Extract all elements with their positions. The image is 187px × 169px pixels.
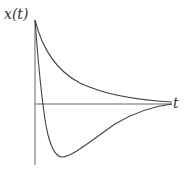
y-axis-label: x(t) [4, 6, 28, 22]
response-chart: x(t) t [0, 0, 187, 169]
plot-area [0, 0, 187, 169]
curve-overshoot [35, 20, 172, 157]
x-axis-label: t [173, 95, 179, 111]
curve-monotone-decay [35, 20, 172, 102]
